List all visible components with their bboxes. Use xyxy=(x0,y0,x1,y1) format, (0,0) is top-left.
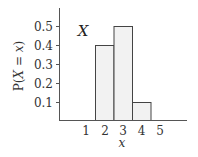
bar-x-4 xyxy=(133,103,152,121)
bar-x-3 xyxy=(114,27,133,121)
y-tick-label-0.1: 0.1 xyxy=(34,96,53,110)
x-axis-label: x xyxy=(119,136,126,150)
random-variable-annotation: X xyxy=(77,22,90,40)
x-tick-label-1: 1 xyxy=(82,124,90,138)
y-ticks xyxy=(56,27,60,103)
probability-bar-chart: 0.5 0.4 0.3 0.2 0.1 P(X = x) 1 2 3 4 5 x… xyxy=(0,0,198,157)
y-tick-label-0.4: 0.4 xyxy=(34,39,53,53)
y-tick-label-0.3: 0.3 xyxy=(34,58,53,72)
bars xyxy=(96,27,152,121)
y-tick-label-0.5: 0.5 xyxy=(34,20,53,34)
x-tick-label-2: 2 xyxy=(101,124,109,138)
bar-x-2 xyxy=(96,46,115,121)
y-axis-label: P(X = x) xyxy=(12,41,26,91)
y-tick-label-0.2: 0.2 xyxy=(34,77,53,91)
x-tick-label-4: 4 xyxy=(138,124,146,138)
x-tick-label-5: 5 xyxy=(156,124,164,138)
